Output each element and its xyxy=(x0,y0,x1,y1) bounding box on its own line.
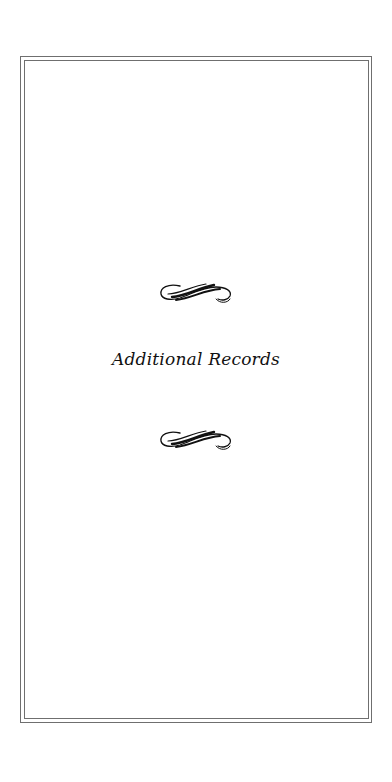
page-title: Additional Records xyxy=(0,346,392,372)
flourish-ornament-icon xyxy=(158,429,238,453)
flourish-ornament-icon xyxy=(158,282,238,306)
page-border-inner xyxy=(24,60,369,719)
document-page: Additional Records xyxy=(0,0,392,782)
